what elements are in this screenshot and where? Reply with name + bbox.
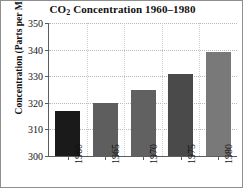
x-tick-label-1965: 1965 <box>110 144 121 164</box>
chart-title-main: CO <box>49 3 66 15</box>
chart-figure: CO2 Concentration 1960–1980 Concentratio… <box>0 0 243 188</box>
x-tick-mark <box>218 156 219 160</box>
bar-1980 <box>206 52 231 156</box>
y-tick-label: 300 <box>28 151 43 162</box>
gridline-vertical <box>199 23 200 156</box>
y-tick-label: 320 <box>28 97 43 108</box>
gridline-vertical <box>162 23 163 156</box>
y-tick-label: 330 <box>28 71 43 82</box>
y-tick-mark <box>45 23 49 24</box>
x-tick-label-1970: 1970 <box>148 144 159 164</box>
y-tick-mark <box>45 50 49 51</box>
x-tick-label-1960: 1960 <box>73 144 84 164</box>
y-tick-label: 310 <box>28 124 43 135</box>
y-axis-title: Concentration (Parts per Million) <box>14 0 24 116</box>
y-tick-mark <box>45 129 49 130</box>
y-tick-label: 340 <box>28 44 43 55</box>
x-tick-mark <box>105 156 106 160</box>
gridline-horizontal <box>49 23 237 24</box>
x-tick-mark <box>68 156 69 160</box>
x-tick-mark <box>181 156 182 160</box>
gridline-vertical <box>87 23 88 156</box>
y-tick-mark <box>45 103 49 104</box>
y-tick-mark <box>45 156 49 157</box>
gridline-horizontal <box>49 50 237 51</box>
x-tick-mark <box>143 156 144 160</box>
plot-area: 300310320330340350 19601965197019751980 <box>48 23 237 157</box>
x-tick-label-1975: 1975 <box>186 144 197 164</box>
y-tick-label: 350 <box>28 18 43 29</box>
x-tick-label-1980: 1980 <box>223 144 234 164</box>
gridline-vertical <box>124 23 125 156</box>
y-tick-mark <box>45 76 49 77</box>
chart-title-rest: Concentration 1960–1980 <box>70 3 195 15</box>
